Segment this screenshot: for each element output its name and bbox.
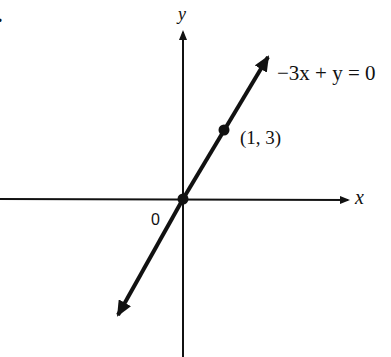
x-axis-label: x bbox=[355, 186, 364, 209]
point-label: (1, 3) bbox=[240, 127, 281, 149]
origin-point bbox=[178, 194, 189, 205]
origin-label: 0 bbox=[151, 211, 160, 229]
equation-label: −3x + y = 0 bbox=[277, 61, 376, 86]
problem-number: 0. bbox=[0, 2, 3, 28]
point-1-3 bbox=[219, 125, 230, 136]
graph-canvas bbox=[0, 0, 391, 357]
y-axis-label: y bbox=[178, 4, 186, 25]
x-axis bbox=[0, 199, 348, 200]
